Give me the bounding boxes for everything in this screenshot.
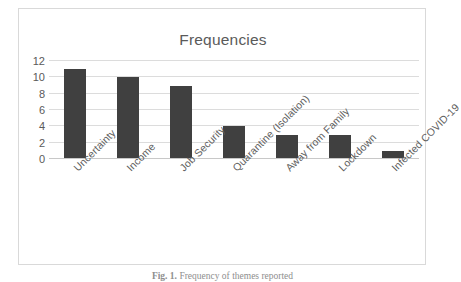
bar <box>64 69 86 159</box>
chart-title: Frequencies <box>19 31 427 49</box>
bar <box>117 77 139 159</box>
y-axis-tick-label: 4 <box>19 121 45 132</box>
figure-caption: Fig. 1. Frequency of themes reported <box>0 271 445 281</box>
figure-caption-text: Frequency of themes reported <box>179 271 293 281</box>
y-axis-tick-label: 6 <box>19 105 45 116</box>
chart-frame: Frequencies 024681012 UncertaintyIncomeJ… <box>18 8 426 265</box>
figure-number: Fig. 1. <box>152 271 177 281</box>
y-axis-tick-label: 0 <box>19 154 45 165</box>
y-axis-tick-label: 12 <box>19 56 45 67</box>
gridline <box>49 93 419 94</box>
y-axis-tick-label: 10 <box>19 72 45 83</box>
y-axis-tick-label: 2 <box>19 137 45 148</box>
bar <box>170 86 192 160</box>
gridline <box>49 60 419 61</box>
gridline <box>49 76 419 77</box>
x-axis-line <box>49 158 419 159</box>
y-axis-tick-label: 8 <box>19 88 45 99</box>
x-axis-category-labels: UncertaintyIncomeJob SecurityQuarantine … <box>49 161 419 261</box>
y-axis-tick-labels: 024681012 <box>19 61 45 159</box>
gridline <box>49 109 419 110</box>
